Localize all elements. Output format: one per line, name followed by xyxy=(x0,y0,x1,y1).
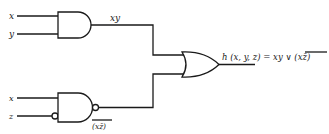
input-inverter-bubble-icon xyxy=(52,113,58,119)
and-gate xyxy=(17,12,186,55)
and-gate-body xyxy=(58,12,91,38)
input-label-y-top: y xyxy=(8,29,15,39)
output-inverter-bubble-icon xyxy=(93,105,99,111)
nand-output-wire xyxy=(99,74,187,108)
and-output-wire xyxy=(91,25,186,55)
and-output-label: xy xyxy=(110,13,121,23)
nand-gate xyxy=(17,74,186,122)
input-label-z: z xyxy=(8,112,14,121)
output-expression-main: h (x, y, z) = xy ∨ xyxy=(222,52,294,62)
output-expression: h (x, y, z) = xy ∨ (xz̄) xyxy=(222,52,310,62)
logic-circuit-diagram: x y xy x z (xz̄) h (x, y, z) = xy ∨ (xz̄… xyxy=(0,0,329,134)
nand-gate-body xyxy=(58,93,92,122)
output-expression-overlined: (xz̄) xyxy=(294,52,310,62)
or-gate-body xyxy=(182,52,219,77)
nand-output-label: (xz̄) xyxy=(92,122,106,131)
input-label-x-top: x xyxy=(9,11,14,21)
input-label-x-bottom: x xyxy=(9,94,14,103)
